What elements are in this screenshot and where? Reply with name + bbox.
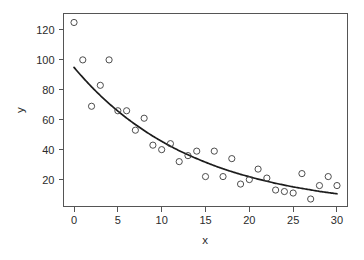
- y-tick-label: 60: [42, 114, 54, 126]
- chart-figure: 20406080100120 051015202530 x y: [0, 0, 364, 260]
- x-tick-label: 0: [71, 214, 77, 226]
- y-tick-label: 80: [42, 84, 54, 96]
- y-tick-label: 40: [42, 144, 54, 156]
- y-tick-label: 120: [36, 24, 54, 36]
- y-axis-title: y: [14, 107, 26, 113]
- x-tick-label: 25: [287, 214, 299, 226]
- x-tick-label: 30: [331, 214, 343, 226]
- scatter-plot-canvas: 20406080100120 051015202530 x y: [0, 0, 364, 260]
- x-axis-title: x: [202, 234, 208, 246]
- x-tick-label: 20: [243, 214, 255, 226]
- figure-background: [0, 0, 364, 260]
- x-tick-label: 15: [199, 214, 211, 226]
- y-tick-label: 20: [42, 174, 54, 186]
- x-tick-label: 10: [156, 214, 168, 226]
- x-tick-label: 5: [115, 214, 121, 226]
- y-tick-label: 100: [36, 54, 54, 66]
